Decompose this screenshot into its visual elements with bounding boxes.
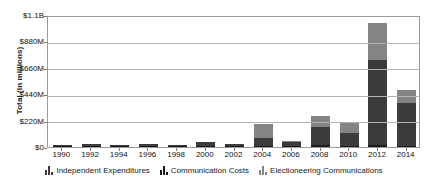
- x-tick-label: 2000: [191, 150, 219, 159]
- x-tick-label: 2010: [334, 150, 362, 159]
- bar-column[interactable]: [368, 23, 387, 147]
- x-tick-mark: [291, 148, 292, 151]
- bar-column[interactable]: [139, 144, 158, 147]
- bar-segment-electioneering-communications: [368, 23, 387, 60]
- x-tick-label: 2014: [392, 150, 420, 159]
- bar-column[interactable]: [254, 124, 273, 147]
- x-tick-mark: [119, 148, 120, 151]
- y-tick-label: $1.1B: [0, 11, 44, 20]
- bar-segment-communication-costs: [282, 146, 301, 147]
- chart-legend: Independent ExpendituresCommunication Co…: [0, 166, 428, 175]
- outside-spending-bar-chart: Total (in millions) $1.1B$880M$660M$440M…: [0, 0, 428, 184]
- bar-segment-communication-costs: [196, 146, 215, 147]
- legend-label: Electioneering Communications: [270, 166, 383, 175]
- bar-segment-independent-expenditures: [311, 127, 330, 145]
- gridline: [48, 96, 419, 97]
- bar-series-group: [48, 17, 419, 147]
- x-tick-mark: [262, 148, 263, 151]
- bar-segment-communication-costs: [53, 146, 72, 147]
- x-tick-label: 2008: [306, 150, 334, 159]
- y-tick-label: $220M: [0, 117, 44, 126]
- y-tick-label: $880M: [0, 37, 44, 46]
- bar-segment-communication-costs: [340, 146, 359, 147]
- bar-segment-communication-costs: [311, 145, 330, 147]
- gridline: [48, 43, 419, 44]
- x-tick-mark: [320, 148, 321, 151]
- bar-segment-communication-costs: [225, 146, 244, 147]
- bar-column[interactable]: [397, 90, 416, 147]
- bar-segment-independent-expenditures: [368, 60, 387, 145]
- bar-swatch-icon: [160, 166, 168, 175]
- bar-segment-communication-costs: [110, 146, 129, 147]
- x-tick-mark: [234, 148, 235, 151]
- y-tick-label: $0: [0, 143, 44, 152]
- x-tick-mark: [348, 148, 349, 151]
- bar-segment-electioneering-communications: [340, 123, 359, 133]
- y-tick-label: $660M: [0, 64, 44, 73]
- legend-item[interactable]: Communication Costs: [160, 166, 249, 175]
- bar-column[interactable]: [311, 116, 330, 147]
- x-tick-mark: [90, 148, 91, 151]
- x-tick-label: 2006: [277, 150, 305, 159]
- bar-column[interactable]: [82, 144, 101, 147]
- bar-segment-independent-expenditures: [397, 103, 416, 145]
- bar-swatch-icon: [259, 166, 267, 175]
- bar-column[interactable]: [53, 145, 72, 147]
- y-tick-label: $440M: [0, 90, 44, 99]
- x-tick-mark: [205, 148, 206, 151]
- bar-segment-electioneering-communications: [254, 124, 273, 138]
- bar-segment-communication-costs: [397, 146, 416, 147]
- bar-column[interactable]: [225, 144, 244, 147]
- x-tick-mark: [61, 148, 62, 151]
- gridline: [48, 69, 419, 70]
- x-tick-label: 2012: [363, 150, 391, 159]
- legend-label: Independent Expenditures: [56, 166, 149, 175]
- x-tick-mark: [176, 148, 177, 151]
- bar-segment-communication-costs: [139, 146, 158, 147]
- bar-segment-communication-costs: [168, 146, 187, 147]
- y-tick-mark: [44, 148, 47, 149]
- legend-label: Communication Costs: [171, 166, 249, 175]
- plot-area: [47, 16, 420, 148]
- bar-segment-communication-costs: [368, 145, 387, 147]
- x-tick-label: 2002: [220, 150, 248, 159]
- bar-column[interactable]: [282, 141, 301, 147]
- bar-segment-independent-expenditures: [254, 138, 273, 146]
- x-tick-mark: [377, 148, 378, 151]
- x-tick-label: 1996: [133, 150, 161, 159]
- x-tick-label: 1992: [76, 150, 104, 159]
- gridline: [48, 122, 419, 123]
- legend-item[interactable]: Electioneering Communications: [259, 166, 383, 175]
- x-tick-label: 1998: [162, 150, 190, 159]
- bar-column[interactable]: [196, 142, 215, 147]
- x-tick-mark: [147, 148, 148, 151]
- bar-column[interactable]: [340, 123, 359, 147]
- bar-segment-communication-costs: [82, 146, 101, 147]
- x-tick-label: 1990: [47, 150, 75, 159]
- x-tick-label: 1994: [105, 150, 133, 159]
- x-tick-mark: [406, 148, 407, 151]
- bar-column[interactable]: [168, 145, 187, 147]
- bar-segment-independent-expenditures: [340, 133, 359, 146]
- bar-swatch-icon: [45, 166, 53, 175]
- legend-item[interactable]: Independent Expenditures: [45, 166, 149, 175]
- bar-column[interactable]: [110, 145, 129, 147]
- bar-segment-communication-costs: [254, 146, 273, 147]
- x-tick-label: 2004: [248, 150, 276, 159]
